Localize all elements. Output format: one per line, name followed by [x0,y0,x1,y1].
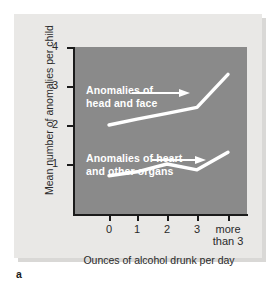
y-axis-tick-3 [67,86,74,88]
series-annotation-heart-and-other-organs-line2: and other organs [86,165,173,177]
series-annotation-heart-and-other-organs-line1: Anomalies of heart [86,152,182,164]
figure-panel: Anomalies ofhead and face Anomalies of h… [14,14,262,258]
x-axis-tick-4 [228,214,230,221]
x-axis-tick-1 [137,214,139,221]
series-annotation-head-and-face: Anomalies ofhead and face [86,84,157,109]
x-axis-tick-label-1: 1 [125,223,149,235]
x-axis-line [73,214,248,216]
x-axis-tick-label-2: 2 [155,223,179,235]
chart-svg [74,47,247,214]
x-axis-tick-label-more-than-3: more than 3 [207,223,249,247]
y-axis-line [73,47,75,215]
y-axis-tick-2 [67,125,74,127]
y-axis-title: Mean number of anomalies per child [43,35,55,195]
figure-container: Anomalies ofhead and face Anomalies of h… [0,0,276,289]
y-axis-tick-1 [67,164,74,166]
x-axis-tick-2 [167,214,169,221]
series-annotation-heart-and-other-organs: Anomalies of heartand other organs [86,152,182,177]
x-axis-tick-3 [197,214,199,221]
series-annotation-head-and-face-line2: head and face [86,97,157,109]
series-annotation-head-and-face-line1: Anomalies of [86,84,153,96]
x-axis-tick-label-0: 0 [97,223,121,235]
plot-area: Anomalies ofhead and face Anomalies of h… [74,47,247,214]
x-axis-tick-label-3: 3 [185,223,209,235]
figure-caption-letter: a [16,268,22,280]
y-axis-tick-4 [67,47,74,49]
x-axis-title: Ounces of alcohol drunk per day [54,254,264,266]
x-axis-tick-0 [109,214,111,221]
